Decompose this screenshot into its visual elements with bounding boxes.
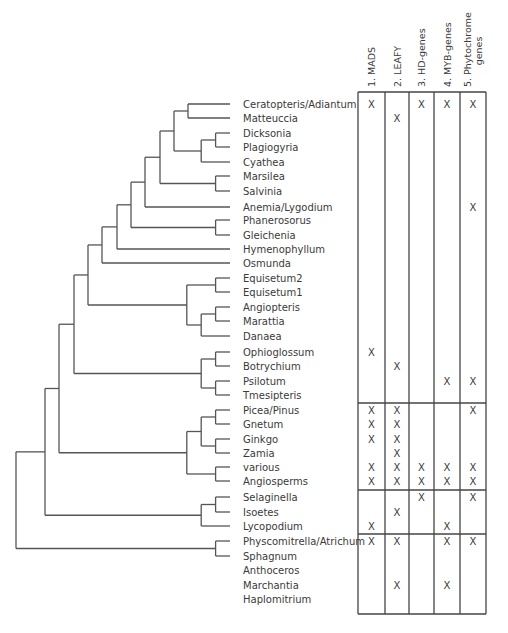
taxon-label: Salvinia <box>243 186 282 197</box>
taxon-label: Picea/Pinus <box>243 405 299 416</box>
presence-mark: X <box>444 376 451 387</box>
presence-mark: X <box>444 580 451 591</box>
taxon-label: Ginkgo <box>243 434 278 445</box>
taxon-label: Cyathea <box>243 157 285 168</box>
taxon-label: Marsilea <box>243 171 285 182</box>
presence-mark: X <box>368 434 375 445</box>
taxon-label: Gnetum <box>243 419 283 430</box>
taxon-label: Physcomitrella/Atrichum <box>243 536 365 547</box>
presence-mark: X <box>368 347 375 358</box>
taxon-label: Haplomitrium <box>243 594 311 605</box>
presence-mark: X <box>444 536 451 547</box>
phylogeny-svg: Ceratopteris/AdiantumMatteucciaDicksonia… <box>0 0 508 633</box>
taxon-label: Dicksonia <box>243 128 291 139</box>
taxon-label: Osmunda <box>243 258 291 269</box>
column-header-leafy: 2. LEAFY <box>392 46 403 87</box>
presence-mark: X <box>368 476 375 487</box>
taxon-label: Danaea <box>243 331 282 342</box>
presence-mark: X <box>444 462 451 473</box>
presence-mark: X <box>418 476 425 487</box>
presence-mark: X <box>368 462 375 473</box>
presence-mark: X <box>394 419 401 430</box>
presence-mark: X <box>368 419 375 430</box>
phylogenetic-tree <box>16 104 230 556</box>
presence-mark: X <box>470 202 477 213</box>
taxon-label: Ophioglossum <box>243 347 314 358</box>
taxon-label: Lycopodium <box>243 521 303 532</box>
phylogeny-figure: Ceratopteris/AdiantumMatteucciaDicksonia… <box>0 0 508 633</box>
presence-mark: X <box>470 405 477 416</box>
column-header-hd: 3. HD-genes <box>416 28 427 87</box>
presence-mark: X <box>418 99 425 110</box>
taxon-label: Angiosperms <box>243 476 308 487</box>
taxon-label: Angiopteris <box>243 302 300 313</box>
taxon-label: Equisetum1 <box>243 287 303 298</box>
presence-mark: X <box>394 113 401 124</box>
presence-mark: X <box>470 99 477 110</box>
taxon-label: Zamia <box>243 448 275 459</box>
presence-mark: X <box>368 99 375 110</box>
presence-mark: X <box>418 462 425 473</box>
presence-mark: X <box>444 99 451 110</box>
presence-mark: X <box>444 476 451 487</box>
presence-mark: X <box>394 434 401 445</box>
presence-mark: X <box>470 376 477 387</box>
taxon-label: Plagiogyria <box>243 142 298 153</box>
taxon-label: Phanerosorus <box>243 215 311 226</box>
presence-mark: X <box>470 476 477 487</box>
column-header-phy: 5. Phytochrome <box>462 12 473 87</box>
taxon-label: Psilotum <box>243 376 286 387</box>
presence-mark: X <box>394 361 401 372</box>
presence-mark: X <box>394 536 401 547</box>
presence-mark: X <box>394 476 401 487</box>
taxon-label: various <box>243 462 280 473</box>
presence-mark: X <box>394 448 401 459</box>
presence-mark: X <box>444 521 451 532</box>
presence-mark: X <box>394 462 401 473</box>
column-header-myb: 4. MYB-genes <box>442 22 453 87</box>
taxon-label: Tmesipteris <box>242 390 302 401</box>
taxon-labels: Ceratopteris/AdiantumMatteucciaDicksonia… <box>242 99 365 605</box>
taxon-label: Gleichenia <box>243 230 296 241</box>
presence-mark: X <box>418 492 425 503</box>
taxon-label: Botrychium <box>243 361 301 372</box>
presence-mark: X <box>368 521 375 532</box>
taxon-label: Isoetes <box>243 507 279 518</box>
taxon-label: Sphagnum <box>243 551 297 562</box>
taxon-label: Equisetum2 <box>243 273 303 284</box>
column-header-phy-line2: genes <box>473 37 484 66</box>
taxon-label: Anemia/Lygodium <box>243 202 333 213</box>
presence-mark: X <box>394 580 401 591</box>
taxon-label: Selaginella <box>243 492 298 503</box>
presence-mark: X <box>394 405 401 416</box>
presence-mark: X <box>470 492 477 503</box>
taxon-label: Hymenophyllum <box>243 244 325 255</box>
taxon-label: Matteuccia <box>243 113 298 124</box>
column-header-mads: 1. MADS <box>366 47 377 87</box>
taxon-label: Marchantia <box>243 580 299 591</box>
presence-mark: X <box>394 507 401 518</box>
gene-presence-matrix: 1. MADS2. LEAFY3. HD-genes4. MYB-genes5.… <box>358 12 486 614</box>
taxon-label: Anthoceros <box>243 565 299 576</box>
taxon-label: Ceratopteris/Adiantum <box>243 99 357 110</box>
taxon-label: Marattia <box>243 316 285 327</box>
presence-mark: X <box>368 536 375 547</box>
presence-mark: X <box>368 405 375 416</box>
presence-mark: X <box>470 536 477 547</box>
presence-mark: X <box>470 462 477 473</box>
